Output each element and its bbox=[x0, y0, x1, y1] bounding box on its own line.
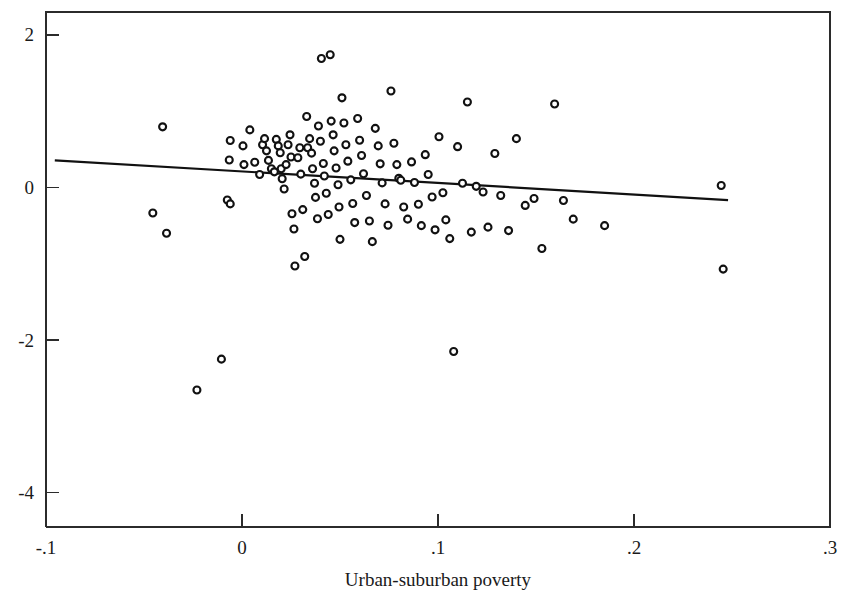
x-tick-label: .1 bbox=[431, 537, 445, 558]
data-point-marker bbox=[439, 189, 446, 196]
x-tick-label: -.1 bbox=[36, 537, 57, 558]
data-point-marker bbox=[330, 131, 337, 138]
data-point-marker bbox=[265, 157, 272, 164]
data-point-marker bbox=[531, 195, 538, 202]
data-point-marker bbox=[331, 147, 338, 154]
data-point-marker bbox=[193, 387, 200, 394]
data-point-marker bbox=[340, 120, 347, 127]
data-point-marker bbox=[538, 245, 545, 252]
data-point-marker bbox=[312, 194, 319, 201]
data-point-marker bbox=[375, 142, 382, 149]
data-point-marker bbox=[323, 190, 330, 197]
data-point-marker bbox=[227, 137, 234, 144]
data-point-marker bbox=[432, 226, 439, 233]
data-point-marker bbox=[379, 179, 386, 186]
axis-labels-group: 20-2-4-.10.1.2.3Urban-suburban poverty bbox=[18, 24, 837, 590]
data-point-marker bbox=[422, 151, 429, 158]
data-point-marker bbox=[358, 152, 365, 159]
data-point-marker bbox=[318, 55, 325, 62]
data-point-marker bbox=[320, 160, 327, 167]
data-point-marker bbox=[505, 227, 512, 234]
data-point-marker bbox=[522, 202, 529, 209]
data-point-marker bbox=[338, 94, 345, 101]
data-point-marker bbox=[356, 137, 363, 144]
data-point-marker bbox=[347, 176, 354, 183]
data-point-marker bbox=[349, 200, 356, 207]
data-point-marker bbox=[484, 224, 491, 231]
data-point-marker bbox=[297, 171, 304, 178]
data-point-marker bbox=[418, 222, 425, 229]
data-point-marker bbox=[560, 197, 567, 204]
data-point-marker bbox=[425, 171, 432, 178]
plot-canvas: 20-2-4-.10.1.2.3Urban-suburban poverty bbox=[0, 0, 841, 593]
data-point-marker bbox=[360, 170, 367, 177]
data-point-marker bbox=[404, 216, 411, 223]
data-point-marker bbox=[385, 222, 392, 229]
data-point-marker bbox=[291, 263, 298, 270]
y-tick-label: 2 bbox=[25, 24, 35, 45]
data-point-marker bbox=[372, 125, 379, 132]
x-tick-label: 0 bbox=[237, 537, 247, 558]
data-point-marker bbox=[382, 200, 389, 207]
data-point-marker bbox=[377, 160, 384, 167]
data-point-marker bbox=[246, 126, 253, 133]
data-point-marker bbox=[251, 159, 258, 166]
data-point-marker bbox=[159, 123, 166, 130]
regression-fit-line bbox=[55, 160, 728, 200]
data-point-marker bbox=[415, 201, 422, 208]
data-point-marker bbox=[309, 165, 316, 172]
data-point-marker bbox=[261, 135, 268, 142]
data-point-marker bbox=[256, 171, 263, 178]
data-point-marker bbox=[363, 192, 370, 199]
data-point-marker bbox=[408, 158, 415, 165]
data-point-marker bbox=[337, 236, 344, 243]
data-point-marker bbox=[317, 138, 324, 145]
data-point-marker bbox=[342, 141, 349, 148]
data-point-marker bbox=[227, 200, 234, 207]
data-point-marker bbox=[390, 140, 397, 147]
data-point-marker bbox=[480, 189, 487, 196]
data-point-marker bbox=[551, 100, 558, 107]
data-point-marker bbox=[239, 142, 246, 149]
data-point-marker bbox=[328, 118, 335, 125]
data-point-marker bbox=[277, 149, 284, 156]
data-point-marker bbox=[218, 356, 225, 363]
x-tick-label: .3 bbox=[823, 537, 837, 558]
data-point-marker bbox=[303, 113, 310, 120]
axes-group bbox=[46, 12, 830, 527]
data-point-marker bbox=[226, 157, 233, 164]
data-point-marker bbox=[287, 131, 294, 138]
fit-line-group bbox=[55, 160, 728, 200]
data-point-marker bbox=[321, 173, 328, 180]
data-point-marker bbox=[400, 203, 407, 210]
data-point-marker bbox=[333, 165, 340, 172]
data-point-marker bbox=[450, 348, 457, 355]
y-tick-label: -4 bbox=[18, 482, 34, 503]
data-point-marker bbox=[311, 180, 318, 187]
data-point-marker bbox=[435, 133, 442, 140]
data-point-marker bbox=[240, 161, 247, 168]
data-point-marker bbox=[335, 181, 342, 188]
data-point-marker bbox=[327, 51, 334, 58]
x-axis-title: Urban-suburban poverty bbox=[345, 569, 532, 590]
data-point-marker bbox=[163, 230, 170, 237]
data-point-marker bbox=[442, 216, 449, 223]
data-point-marker bbox=[315, 123, 322, 130]
data-point-marker bbox=[263, 147, 270, 154]
data-point-marker bbox=[459, 180, 466, 187]
data-point-marker bbox=[411, 179, 418, 186]
data-point-marker bbox=[344, 158, 351, 165]
data-point-marker bbox=[314, 215, 321, 222]
data-point-marker bbox=[366, 218, 373, 225]
data-point-marker bbox=[720, 266, 727, 273]
data-point-marker bbox=[491, 150, 498, 157]
data-point-marker bbox=[281, 186, 288, 193]
data-point-marker bbox=[397, 177, 404, 184]
data-point-marker bbox=[149, 210, 156, 217]
data-point-marker bbox=[351, 219, 358, 226]
data-point-marker bbox=[369, 238, 376, 245]
data-point-marker bbox=[336, 203, 343, 210]
data-point-marker bbox=[454, 143, 461, 150]
y-tick-label: -2 bbox=[18, 330, 34, 351]
data-point-marker bbox=[283, 161, 290, 168]
